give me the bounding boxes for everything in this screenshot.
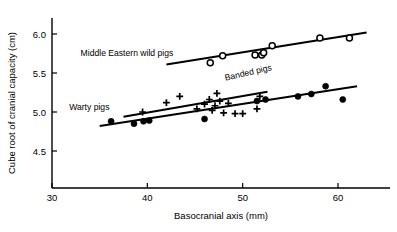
data-point-middle-eastern-wild-pigs-4 bbox=[261, 50, 267, 56]
data-point-banded-pigs-14 bbox=[254, 105, 261, 112]
data-point-middle-eastern-wild-pigs-7 bbox=[346, 35, 352, 41]
data-point-warty-pigs-4 bbox=[202, 116, 208, 122]
data-point-banded-pigs-12 bbox=[232, 110, 239, 117]
data-point-banded-pigs-2 bbox=[176, 93, 183, 100]
y-tick-label-5: 5.0 bbox=[33, 107, 46, 118]
data-point-banded-pigs-1 bbox=[163, 99, 170, 106]
x-tick-label-40: 40 bbox=[142, 192, 153, 203]
data-point-warty-pigs-6 bbox=[263, 97, 269, 103]
data-point-banded-pigs-10 bbox=[220, 109, 227, 116]
x-tick-label-50: 50 bbox=[237, 192, 248, 203]
data-point-middle-eastern-wild-pigs-5 bbox=[269, 43, 275, 49]
series-label-warty-pigs: Warty pigs bbox=[69, 102, 109, 112]
x-tick-label-30: 30 bbox=[47, 192, 58, 203]
scatter-plot: 304050604.55.05.56.0Basocranial axis (mm… bbox=[0, 0, 397, 232]
data-point-banded-pigs-8 bbox=[214, 90, 221, 97]
y-tick-label-5.5: 5.5 bbox=[33, 68, 46, 79]
x-axis-title: Basocranial axis (mm) bbox=[174, 210, 268, 221]
data-point-warty-pigs-3 bbox=[146, 118, 152, 124]
series-label-middle-eastern-wild-pigs: Middle Eastern wild pigs bbox=[81, 48, 174, 58]
data-point-warty-pigs-8 bbox=[308, 91, 314, 97]
y-tick-label-4.5: 4.5 bbox=[33, 146, 46, 157]
data-point-warty-pigs-9 bbox=[323, 83, 329, 89]
data-point-warty-pigs-1 bbox=[131, 121, 137, 127]
data-point-middle-eastern-wild-pigs-6 bbox=[317, 35, 323, 41]
data-point-middle-eastern-wild-pigs-0 bbox=[207, 60, 213, 66]
data-point-warty-pigs-10 bbox=[340, 97, 346, 103]
x-tick-label-60: 60 bbox=[333, 192, 344, 203]
data-point-warty-pigs-2 bbox=[141, 118, 147, 124]
data-point-middle-eastern-wild-pigs-2 bbox=[252, 52, 258, 58]
data-point-middle-eastern-wild-pigs-1 bbox=[220, 53, 226, 59]
data-point-warty-pigs-5 bbox=[254, 98, 260, 104]
y-tick-label-6: 6.0 bbox=[33, 29, 46, 40]
series-label-banded-pigs: Banded pigs bbox=[224, 62, 273, 82]
data-point-warty-pigs-0 bbox=[108, 118, 114, 124]
data-point-warty-pigs-7 bbox=[295, 93, 301, 99]
trend-line-middle-eastern-wild-pigs bbox=[166, 32, 366, 64]
data-point-banded-pigs-13 bbox=[239, 110, 246, 117]
chart-container: 304050604.55.05.56.0Basocranial axis (mm… bbox=[0, 0, 397, 232]
y-axis-title: Cube root of cranial capacity (cm) bbox=[6, 32, 17, 174]
